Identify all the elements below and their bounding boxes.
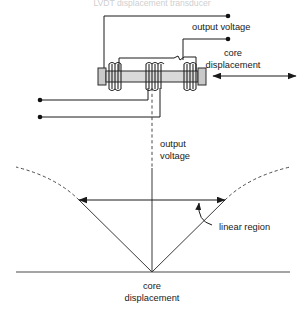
linear-region-leader bbox=[199, 203, 212, 225]
label-linear-region: linear region bbox=[219, 222, 270, 232]
clipped-title: LVDT displacement transducer bbox=[93, 0, 210, 8]
lvdt-figure: LVDT displacement transducer bbox=[0, 0, 305, 312]
label-output-voltage-schematic: output voltage bbox=[192, 22, 250, 32]
terminal-output-negative bbox=[226, 37, 231, 42]
graph-group: output voltage linear region core displa… bbox=[16, 88, 290, 303]
label-core-line1: core bbox=[224, 48, 242, 58]
curve-extension-right bbox=[225, 167, 290, 200]
label-graph-core-line1: core bbox=[143, 281, 161, 291]
body-end-cap-left bbox=[98, 68, 106, 85]
wire-primary-upper bbox=[40, 88, 148, 100]
clipped-header-text: LVDT displacement transducer bbox=[93, 0, 210, 8]
terminal-excitation-positive bbox=[38, 98, 43, 103]
primary-coil-center bbox=[146, 63, 164, 91]
label-graph-output-line1: output bbox=[160, 139, 186, 149]
label-graph-core-line2: displacement bbox=[125, 293, 180, 303]
schematic-group: output voltage core displacement bbox=[38, 14, 296, 120]
label-core-line2: displacement bbox=[206, 60, 261, 70]
curve-extension-left bbox=[16, 167, 79, 200]
wire-primary-lower bbox=[40, 88, 160, 117]
figure-canvas: LVDT displacement transducer bbox=[0, 0, 305, 312]
terminal-output-positive bbox=[226, 14, 231, 19]
terminal-excitation-negative bbox=[38, 115, 43, 120]
body-end-cap-right bbox=[198, 68, 206, 85]
label-graph-output-line2: voltage bbox=[160, 151, 190, 161]
